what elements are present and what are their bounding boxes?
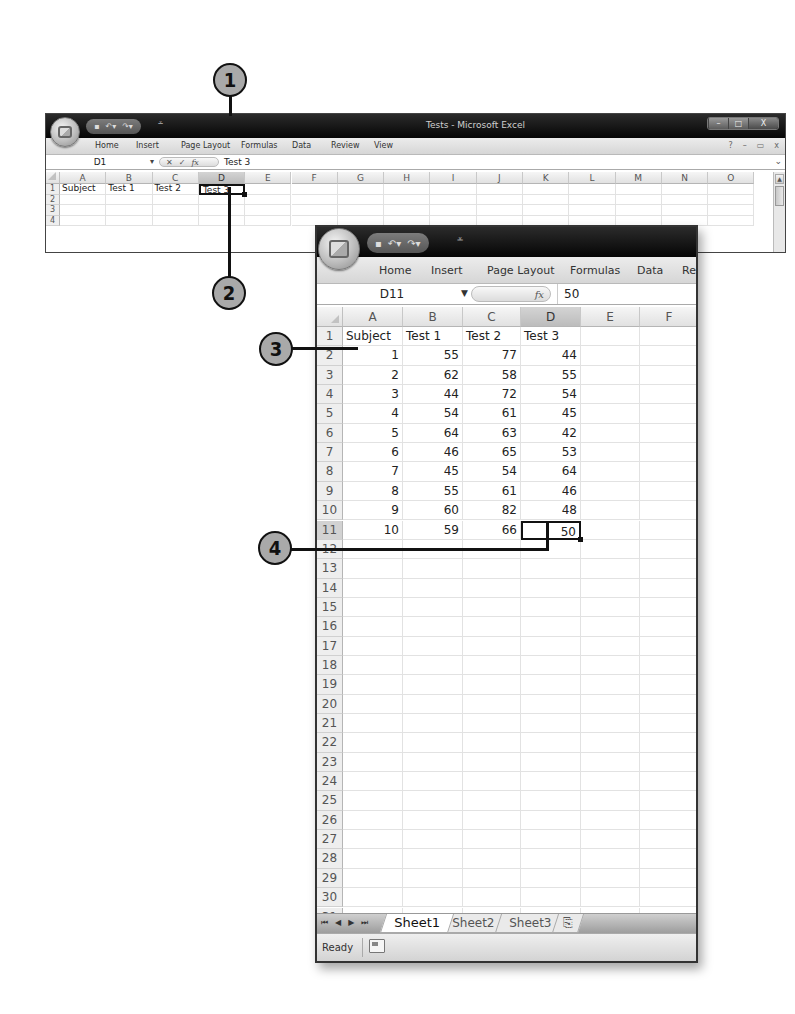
- next-sheet-icon[interactable]: ▶: [348, 918, 354, 928]
- tab-home[interactable]: Home: [95, 141, 119, 150]
- column-header-e[interactable]: E: [581, 307, 640, 327]
- column-header-o[interactable]: O: [708, 172, 754, 184]
- row-header-15[interactable]: 15: [317, 598, 343, 617]
- cell-b6[interactable]: 64: [403, 424, 463, 443]
- cell-c24[interactable]: [463, 772, 521, 791]
- cell-a3[interactable]: 2: [343, 366, 403, 385]
- cell-e12[interactable]: [581, 540, 640, 559]
- insert-function-icon[interactable]: fx: [191, 158, 198, 167]
- insert-sheet-button[interactable]: ⎘: [552, 914, 584, 933]
- cell-b7[interactable]: 46: [403, 443, 463, 462]
- row-header-10[interactable]: 10: [317, 501, 343, 520]
- row-header-24[interactable]: 24: [317, 772, 343, 791]
- row-header-2[interactable]: 2: [46, 195, 60, 206]
- cell-c15[interactable]: [463, 598, 521, 617]
- cell-e29[interactable]: [581, 869, 640, 888]
- cell-e2[interactable]: [581, 346, 640, 365]
- cell-c29[interactable]: [463, 869, 521, 888]
- cell-d28[interactable]: [521, 849, 581, 868]
- cell-d9[interactable]: 46: [521, 482, 581, 501]
- row-header-4[interactable]: 4: [317, 385, 343, 404]
- tab-review[interactable]: Re: [682, 264, 696, 277]
- cell-a3[interactable]: [60, 205, 106, 216]
- cell-e24[interactable]: [581, 772, 640, 791]
- cell-h2[interactable]: [384, 195, 430, 206]
- cell-e7[interactable]: [581, 443, 640, 462]
- cell-d24[interactable]: [521, 772, 581, 791]
- cell-a30[interactable]: [343, 888, 403, 907]
- cell-d4[interactable]: 54: [521, 385, 581, 404]
- cell-b25[interactable]: [403, 791, 463, 810]
- cell-a13[interactable]: [343, 559, 403, 578]
- cell-h1[interactable]: [384, 184, 430, 195]
- column-header-l[interactable]: L: [569, 172, 615, 184]
- cell-c2[interactable]: [153, 195, 199, 206]
- cell-b2[interactable]: [106, 195, 152, 206]
- cell-f14[interactable]: [640, 579, 696, 598]
- cell-g1[interactable]: [338, 184, 384, 195]
- row-header-18[interactable]: 18: [317, 656, 343, 675]
- cell-f23[interactable]: [640, 753, 696, 772]
- scroll-up-icon[interactable]: ▲: [775, 174, 784, 184]
- cell-e1[interactable]: [581, 327, 640, 346]
- cell-d1[interactable]: Test 3: [521, 327, 581, 346]
- row-header-16[interactable]: 16: [317, 617, 343, 636]
- row-header-1[interactable]: 1: [46, 184, 60, 195]
- cell-d3[interactable]: [199, 205, 245, 216]
- cell-a1[interactable]: Subject: [60, 184, 106, 195]
- cell-e5[interactable]: [581, 404, 640, 423]
- cell-o3[interactable]: [708, 205, 754, 216]
- sheet-tab-sheet1[interactable]: Sheet1: [380, 914, 454, 933]
- cell-a23[interactable]: [343, 753, 403, 772]
- cell-a4[interactable]: 3: [343, 385, 403, 404]
- cell-f8[interactable]: [640, 462, 696, 481]
- row-header-30[interactable]: 30: [317, 888, 343, 907]
- cell-c3[interactable]: 58: [463, 366, 521, 385]
- cell-o1[interactable]: [708, 184, 754, 195]
- row-header-3[interactable]: 3: [317, 366, 343, 385]
- formula-input[interactable]: Test 3: [224, 155, 250, 169]
- cell-c18[interactable]: [463, 656, 521, 675]
- worksheet-grid[interactable]: ABCDEF1SubjectTest 1Test 2Test 321557744…: [317, 307, 696, 913]
- row-header-11[interactable]: 11: [317, 521, 343, 540]
- cell-e25[interactable]: [581, 791, 640, 810]
- cell-a17[interactable]: [343, 637, 403, 656]
- cell-b1[interactable]: Test 1: [106, 184, 152, 195]
- cell-b20[interactable]: [403, 695, 463, 714]
- row-header-7[interactable]: 7: [317, 443, 343, 462]
- row-header-1[interactable]: 1: [317, 327, 343, 346]
- cell-c1[interactable]: Test 2: [463, 327, 521, 346]
- cell-a22[interactable]: [343, 733, 403, 752]
- cell-d22[interactable]: [521, 733, 581, 752]
- cell-d6[interactable]: 42: [521, 424, 581, 443]
- cell-c27[interactable]: [463, 830, 521, 849]
- cell-e4[interactable]: [245, 216, 291, 227]
- cell-d29[interactable]: [521, 869, 581, 888]
- cell-a16[interactable]: [343, 617, 403, 636]
- cell-k1[interactable]: [523, 184, 569, 195]
- cell-f29[interactable]: [640, 869, 696, 888]
- cell-c14[interactable]: [463, 579, 521, 598]
- tab-data[interactable]: Data: [637, 264, 663, 277]
- workbook-restore-button[interactable]: ▭: [757, 141, 765, 150]
- tab-page-layout[interactable]: Page Layout: [487, 264, 555, 277]
- cell-f3[interactable]: [640, 366, 696, 385]
- cell-a26[interactable]: [343, 811, 403, 830]
- minimize-button[interactable]: –: [708, 118, 728, 129]
- cell-f24[interactable]: [640, 772, 696, 791]
- cell-b29[interactable]: [403, 869, 463, 888]
- prev-sheet-icon[interactable]: ◀: [335, 918, 341, 928]
- cell-a27[interactable]: [343, 830, 403, 849]
- cell-c23[interactable]: [463, 753, 521, 772]
- office-button[interactable]: [50, 117, 80, 147]
- tab-home[interactable]: Home: [379, 264, 411, 277]
- cell-c21[interactable]: [463, 714, 521, 733]
- cell-c20[interactable]: [463, 695, 521, 714]
- cell-c13[interactable]: [463, 559, 521, 578]
- cell-d4[interactable]: [199, 216, 245, 227]
- cell-f12[interactable]: [640, 540, 696, 559]
- cell-c6[interactable]: 63: [463, 424, 521, 443]
- cell-d17[interactable]: [521, 637, 581, 656]
- cell-d8[interactable]: 64: [521, 462, 581, 481]
- row-header-29[interactable]: 29: [317, 869, 343, 888]
